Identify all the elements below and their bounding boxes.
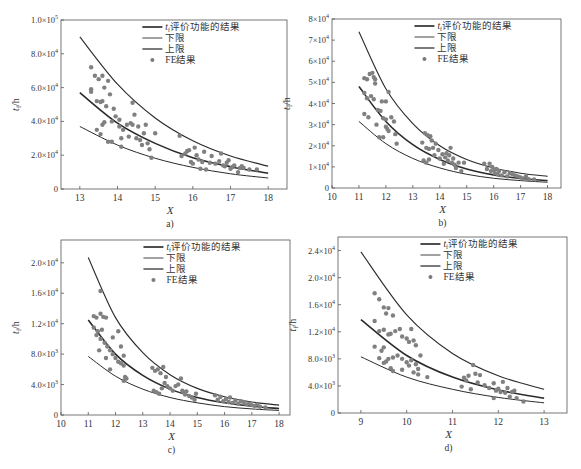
fe-point [127, 134, 131, 138]
fe-point [117, 118, 121, 122]
legend-label: 上限 [166, 264, 186, 274]
fe-point [119, 344, 123, 348]
x-tick-label: 13 [539, 417, 549, 427]
fe-point [156, 367, 160, 371]
fe-point [226, 400, 230, 404]
fe-point [144, 123, 148, 127]
y-axis-ticks: 04.0×1038.0×1031.2×1041.6×1042.0×104 [31, 257, 64, 420]
y-tick-label: 0 [54, 410, 58, 420]
fe-point [438, 156, 442, 160]
fe-point [104, 315, 108, 319]
legend-label: FE结果 [165, 54, 196, 65]
fe-point [498, 390, 502, 394]
x-tick-label: 11 [84, 419, 93, 429]
fe-point [456, 160, 460, 164]
y-tick-label: 4.0×103 [31, 379, 58, 390]
y-tick-label: 1.2×104 [31, 318, 58, 329]
fe-point [122, 363, 126, 367]
panel-label: a) [166, 219, 173, 230]
y-tick-label: 4×104 [308, 98, 329, 109]
fe-point [381, 135, 385, 139]
y-tick-label: 8.0×104 [31, 48, 58, 59]
fe-point [400, 357, 404, 361]
fe-points [362, 71, 536, 182]
x-tick-label: 11 [354, 192, 363, 202]
fe-point [96, 77, 100, 81]
fe-point [95, 128, 99, 132]
x-tick-label: 17 [247, 419, 257, 429]
legend-label: tf评价功能的结果 [166, 241, 241, 253]
fe-point [416, 367, 420, 371]
fe-point [94, 333, 98, 337]
x-tick-label: 16 [220, 419, 230, 429]
fe-point [400, 367, 404, 371]
fe-point [469, 387, 473, 391]
legend-label: tf评价功能的结果 [165, 21, 240, 33]
fe-point [98, 289, 102, 293]
fe-point [425, 375, 429, 379]
panel-label: d) [445, 443, 453, 454]
fe-point [145, 141, 149, 145]
x-tick-label: 14 [165, 419, 175, 429]
lower-curve [80, 126, 268, 178]
fe-point [164, 375, 168, 379]
fe-point [147, 147, 151, 151]
fe-point [110, 119, 114, 123]
fe-point [505, 386, 509, 390]
x-tick-label: 12 [494, 417, 504, 427]
fe-point [213, 393, 217, 397]
legend-label: FE结果 [437, 53, 468, 64]
x-tick-label: 9 [359, 417, 364, 427]
fe-point [226, 158, 230, 162]
fe-point [409, 327, 413, 331]
fe-point [112, 107, 116, 111]
fe-point [451, 156, 455, 160]
fe-point [116, 329, 120, 333]
fe-point [414, 343, 418, 347]
fe-point [208, 161, 212, 165]
y-axis-label: tf/h [281, 97, 293, 110]
fe-point [92, 325, 96, 329]
legend-label: FE结果 [443, 271, 474, 282]
fe-point [132, 112, 136, 116]
fe-point [187, 148, 191, 152]
fe-point [160, 386, 164, 390]
fe-point [362, 112, 366, 116]
fe-point [407, 340, 411, 344]
fe-point [407, 363, 411, 367]
fe-point [209, 154, 213, 158]
chart-panel-d: 91011121304.0×1038.0×1031.2×1041.6×1042.… [287, 237, 567, 454]
fe-point [97, 348, 101, 352]
fe-points [92, 289, 268, 410]
fe-point [391, 355, 395, 359]
fe-point [362, 91, 366, 95]
fe-point [374, 122, 378, 126]
fe-point [400, 334, 404, 338]
y-tick-label: 0 [325, 183, 329, 193]
fe-point [386, 306, 390, 310]
legend-label: tf评价功能的结果 [437, 20, 512, 32]
fe-point [198, 167, 202, 171]
legend-label: 下限 [166, 253, 186, 263]
legend-label: tf评价功能的结果 [443, 238, 518, 250]
x-tick-label: 15 [462, 192, 472, 202]
y-tick-label: 1.2×104 [308, 326, 335, 337]
fe-point [102, 120, 106, 124]
fe-point [436, 148, 440, 152]
fe-point [241, 166, 245, 170]
legend: tf评价功能的结果下限上限FE结果 [414, 20, 512, 64]
chart-panel-a: 13141516171802.0×1044.0×1046.0×1048.0×10… [10, 14, 287, 230]
fe-point [432, 153, 436, 157]
x-tick-label: 12 [381, 192, 391, 202]
fe-point [258, 404, 262, 408]
fe-point [111, 335, 115, 339]
legend-dot-icon [151, 278, 155, 282]
fe-point [391, 313, 395, 317]
fe-point [377, 329, 381, 333]
fe-point [384, 125, 388, 129]
fe-point [194, 153, 198, 157]
fe-point [177, 134, 181, 138]
fe-point [100, 328, 104, 332]
fe-point [512, 388, 516, 392]
fe-point [382, 328, 386, 332]
